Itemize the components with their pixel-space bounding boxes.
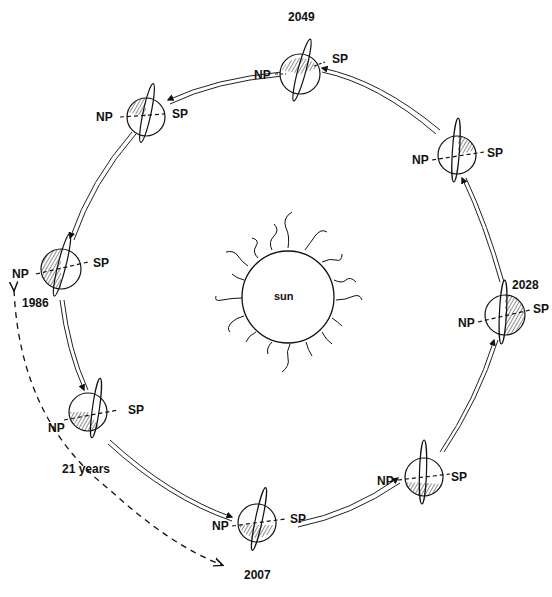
np-label-2007: NP	[212, 519, 229, 533]
year-label-2007: 2007	[244, 568, 271, 582]
planet-upper-right	[432, 118, 484, 182]
planet-1986	[36, 233, 88, 297]
np-label-lower-right: NP	[377, 474, 394, 488]
sp-label-upper-right: SP	[487, 146, 503, 160]
sp-label-lower-right: SP	[451, 470, 467, 484]
planet-lower-left	[64, 378, 118, 438]
orbit-diagram: 2049 1986 2007 2028 21 years sun NP SP N…	[0, 0, 552, 597]
np-label-2049: NP	[254, 68, 271, 82]
year-label-2028: 2028	[512, 278, 539, 292]
planet-2049	[275, 38, 325, 102]
np-label-upper-left: NP	[96, 110, 113, 124]
sp-label-2028: SP	[533, 302, 549, 316]
np-label-upper-right: NP	[412, 153, 429, 167]
interval-label: 21 years	[62, 462, 110, 476]
planet-upper-left	[120, 83, 165, 143]
year-label-1986: 1986	[22, 296, 49, 310]
sp-label-2007: SP	[290, 512, 306, 526]
sp-label-1986: SP	[93, 256, 109, 270]
sp-label-2049: SP	[332, 52, 348, 66]
np-label-2028: NP	[458, 316, 475, 330]
planet-2007	[232, 487, 285, 551]
sp-label-upper-left: SP	[172, 107, 188, 121]
np-label-lower-left: NP	[48, 421, 65, 435]
year-label-2049: 2049	[288, 10, 315, 24]
np-label-1986: NP	[12, 267, 29, 281]
sp-label-lower-left: SP	[128, 403, 144, 417]
sun-label: sun	[274, 290, 294, 302]
interval-arc	[14, 290, 222, 565]
